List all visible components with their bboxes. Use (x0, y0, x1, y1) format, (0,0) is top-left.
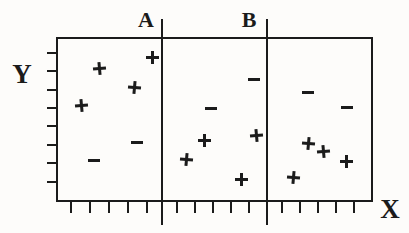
threshold-line-b (266, 19, 268, 225)
x-axis-tick (335, 202, 337, 213)
x-axis-tick (146, 202, 148, 213)
plus-mark (74, 99, 88, 113)
plus-mark (128, 81, 142, 95)
plus-mark (250, 128, 264, 142)
x-axis-tick (317, 202, 319, 213)
x-axis-tick (70, 202, 72, 213)
x-axis-tick (176, 202, 178, 213)
minus-mark (341, 106, 353, 109)
x-axis-tick (194, 202, 196, 213)
x-axis-tick (212, 202, 214, 213)
y-axis-tick (47, 181, 56, 183)
plus-mark (235, 173, 248, 186)
plus-mark (180, 152, 194, 166)
x-axis-tick (299, 202, 301, 213)
y-axis-tick (47, 89, 56, 91)
plus-mark (198, 134, 211, 147)
threshold-line-a (161, 19, 163, 225)
minus-mark (88, 159, 100, 162)
y-axis-tick (47, 162, 56, 164)
x-axis-tick (127, 202, 129, 213)
y-axis-label: Y (12, 61, 32, 88)
scatter-plot-figure: Y X A B (0, 0, 409, 233)
plus-mark (286, 170, 300, 184)
y-axis-tick (47, 52, 56, 54)
plus-mark (340, 155, 353, 168)
x-axis-tick (89, 202, 91, 213)
y-axis-tick (47, 70, 56, 72)
x-axis-tick (281, 202, 283, 213)
plus-mark (92, 62, 106, 76)
threshold-a-label: A (138, 9, 154, 31)
minus-mark (248, 78, 260, 81)
plus-mark (317, 144, 331, 158)
y-axis-tick (47, 125, 56, 127)
plus-mark (301, 136, 315, 150)
x-axis-tick (248, 202, 250, 213)
x-axis-label: X (380, 196, 400, 223)
y-axis-tick (47, 107, 56, 109)
minus-mark (205, 107, 217, 110)
plus-mark (146, 51, 159, 64)
y-axis-tick (47, 144, 56, 146)
minus-mark (302, 91, 314, 94)
x-axis-tick (230, 202, 232, 213)
x-axis-tick (108, 202, 110, 213)
threshold-b-label: B (242, 9, 257, 31)
minus-mark (131, 141, 143, 144)
x-axis-tick (353, 202, 355, 213)
